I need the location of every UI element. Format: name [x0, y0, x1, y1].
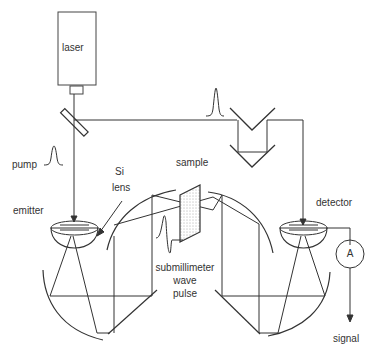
pulse-label-line1: submillimeter — [150, 262, 220, 274]
detector-arrowhead — [300, 219, 306, 225]
si-lens-label-line1: Si — [115, 166, 124, 178]
pulse-label-line2: wave — [150, 275, 220, 287]
laser-label: laser — [62, 42, 84, 54]
si-lens-pointer — [100, 201, 122, 232]
detector-lens — [280, 228, 327, 248]
emitter-ray-right — [73, 236, 97, 333]
sample-plate — [180, 185, 200, 242]
detector-ray-right — [305, 236, 325, 296]
left-lower-mirror — [43, 270, 103, 340]
sample-label: sample — [176, 157, 208, 169]
ammeter-label: A — [343, 248, 357, 260]
signal-arrowhead — [347, 315, 353, 322]
pump-label: pump — [12, 159, 37, 171]
signal-label: signal — [333, 333, 359, 345]
detector-wire — [327, 228, 350, 245]
pump-pulse-icon — [44, 146, 63, 165]
emitter-lens — [51, 228, 98, 248]
delay-upper-reflector — [230, 108, 275, 130]
thz-pulse-icon — [156, 216, 183, 253]
right-lower-mirror-flat — [215, 290, 260, 334]
si-lens-label-line2: lens — [112, 182, 130, 194]
probe-pulse-icon — [206, 88, 224, 116]
emitter-label: emitter — [13, 205, 44, 217]
pulse-label-line3: pulse — [150, 288, 220, 300]
detector-label: detector — [316, 197, 352, 209]
detector-ray-left — [278, 236, 301, 333]
delay-lower-reflector — [230, 145, 275, 167]
laser-aperture — [70, 86, 83, 94]
setup-diagram — [0, 0, 378, 354]
